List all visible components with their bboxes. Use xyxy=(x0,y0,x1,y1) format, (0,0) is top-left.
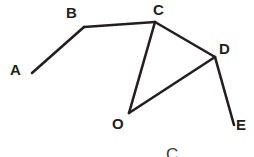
segments-group xyxy=(32,22,234,125)
segment-DE xyxy=(215,57,234,125)
figure-line-drawing xyxy=(0,0,254,157)
vertex-label-D: D xyxy=(219,41,230,56)
vertex-label-O: O xyxy=(112,116,124,131)
segment-BC xyxy=(84,22,155,27)
segment-CD xyxy=(155,22,215,57)
geometry-figure: A B C D E O C xyxy=(0,0,254,157)
vertex-label-E: E xyxy=(236,117,246,132)
caption-fragment-text: C xyxy=(166,146,178,157)
vertex-label-B: B xyxy=(66,5,77,20)
vertex-label-A: A xyxy=(10,62,21,77)
segment-AB xyxy=(32,27,84,73)
vertex-label-C: C xyxy=(153,2,164,17)
